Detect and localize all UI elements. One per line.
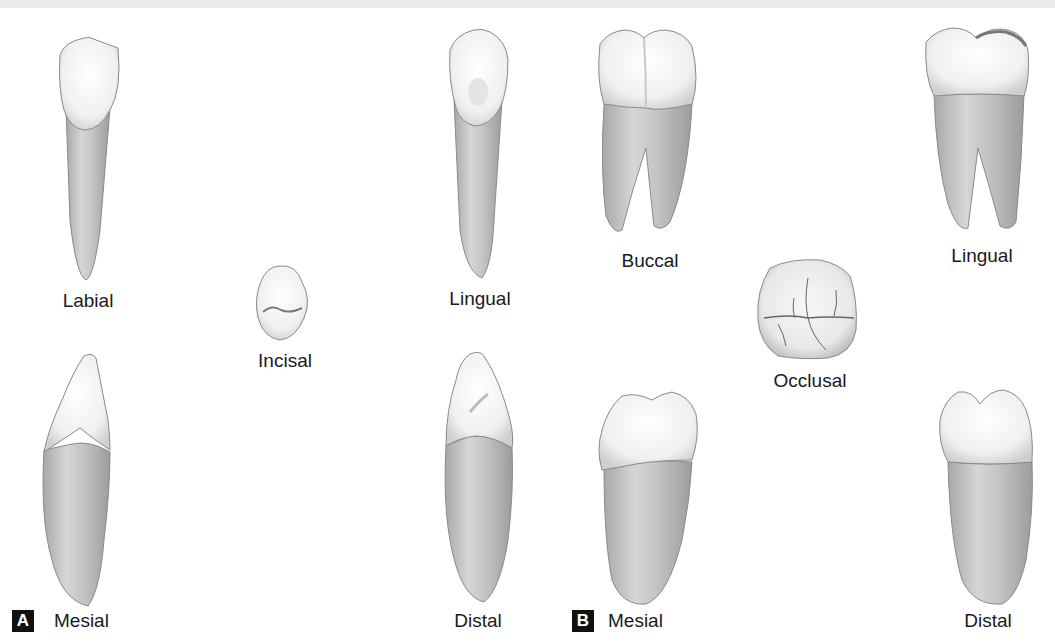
tooth-b-lingual (926, 28, 1029, 229)
label-a-incisal: Incisal (258, 350, 312, 372)
cut-off-caption-strip (0, 636, 1055, 644)
label-b-occlusal: Occlusal (774, 370, 847, 392)
tooth-illustrations (0, 0, 1055, 644)
tooth-b-distal (940, 390, 1033, 604)
panel-a-badge: A (12, 610, 34, 632)
label-b-lingual: Lingual (951, 245, 1012, 267)
label-a-distal: Distal (454, 610, 502, 632)
label-a-lingual: Lingual (449, 288, 510, 310)
label-b-mesial: Mesial (608, 610, 663, 632)
panel-b-badge: B (572, 610, 594, 632)
tooth-a-distal (445, 352, 513, 602)
label-b-buccal: Buccal (621, 250, 678, 272)
label-a-labial: Labial (63, 290, 114, 312)
label-a-mesial: Mesial (54, 610, 109, 632)
tooth-a-mesial (43, 354, 110, 606)
label-b-distal: Distal (964, 610, 1012, 632)
tooth-a-labial (60, 37, 120, 280)
tooth-a-lingual (450, 29, 508, 278)
tooth-b-occlusal (758, 260, 857, 359)
tooth-b-buccal (599, 30, 696, 231)
tooth-b-mesial (599, 392, 697, 604)
tooth-a-incisal (256, 266, 307, 340)
